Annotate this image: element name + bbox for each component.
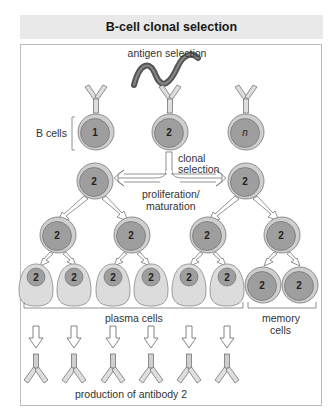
svg-text:2: 2 xyxy=(242,176,248,187)
cells-label: cells xyxy=(270,324,291,336)
svg-text:2: 2 xyxy=(166,127,172,138)
svg-text:2: 2 xyxy=(71,272,77,283)
antigen-selection-label: antigen selection xyxy=(0,47,334,59)
svg-text:2: 2 xyxy=(224,272,230,283)
svg-text:1: 1 xyxy=(92,127,98,138)
antigen-icon xyxy=(134,55,198,85)
svg-text:2: 2 xyxy=(54,230,60,241)
svg-text:2: 2 xyxy=(204,230,210,241)
svg-text:2: 2 xyxy=(110,272,116,283)
b-cells-label: B cells xyxy=(36,127,67,139)
svg-text:2: 2 xyxy=(33,272,39,283)
memory-label: memory xyxy=(262,312,300,324)
svg-text:2: 2 xyxy=(148,272,154,283)
svg-text:2: 2 xyxy=(296,280,302,291)
svg-text:2: 2 xyxy=(128,230,134,241)
svg-text:2: 2 xyxy=(186,272,192,283)
selection-label: selection xyxy=(178,163,219,175)
svg-text:2: 2 xyxy=(91,176,97,187)
svg-text:2: 2 xyxy=(259,280,265,291)
maturation-label: maturation xyxy=(146,200,196,212)
production-label: production of antibody 2 xyxy=(75,388,187,400)
svg-text:n: n xyxy=(242,127,248,138)
plasma-cells-label: plasma cells xyxy=(105,312,163,324)
svg-text:2: 2 xyxy=(278,230,284,241)
proliferation-label: proliferation/ xyxy=(142,188,200,200)
